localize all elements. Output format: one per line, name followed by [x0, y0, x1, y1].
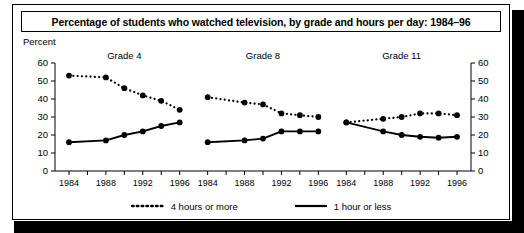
y-tick-label: 20 — [478, 129, 489, 140]
data-point — [399, 114, 405, 120]
legend-item-1-hour-or-less: 1 hour or less — [294, 201, 392, 212]
y-tick-label: 50 — [37, 75, 48, 86]
x-tick-label: 1996 — [447, 178, 467, 188]
data-point — [454, 134, 460, 140]
data-point — [436, 111, 442, 117]
data-point — [417, 134, 423, 140]
x-tick-label: 1984 — [336, 178, 356, 188]
data-point — [158, 98, 164, 104]
data-point — [315, 129, 321, 135]
line-chart-svg: 01020304050600102030405060Grade 41984198… — [13, 45, 511, 191]
data-point — [260, 136, 266, 142]
data-point — [242, 138, 248, 144]
legend-label: 1 hour or less — [334, 201, 392, 212]
x-tick-label: 1984 — [198, 178, 218, 188]
data-point — [121, 132, 127, 138]
data-point — [380, 129, 386, 135]
y-tick-label: 40 — [478, 93, 489, 104]
drop-shadow-right — [512, 10, 524, 233]
data-point — [297, 112, 303, 118]
y-tick-label: 30 — [37, 111, 48, 122]
data-point — [177, 120, 183, 126]
panel-label-1: Grade 4 — [107, 50, 141, 61]
x-tick-label: 1992 — [410, 178, 430, 188]
figure-frame: Percentage of students who watched telev… — [12, 4, 510, 220]
y-tick-label: 20 — [37, 129, 48, 140]
data-point — [279, 129, 285, 135]
y-tick-label: 60 — [37, 57, 48, 68]
panel-label-3: Grade 11 — [382, 50, 421, 61]
legend-item-4-hours-or-more: 4 hours or more — [131, 201, 238, 212]
x-tick-label: 1992 — [271, 178, 291, 188]
data-point — [103, 138, 109, 144]
chart-screenshot: Percentage of students who watched telev… — [0, 0, 524, 233]
data-point — [260, 102, 266, 108]
y-tick-label: 0 — [43, 165, 48, 176]
y-tick-label: 40 — [37, 93, 48, 104]
page-title: Percentage of students who watched telev… — [52, 16, 471, 28]
data-point — [66, 139, 72, 145]
data-point — [454, 112, 460, 118]
legend: 4 hours or more 1 hour or less — [13, 197, 509, 215]
data-point — [140, 129, 146, 135]
x-tick-label: 1988 — [373, 178, 393, 188]
drop-shadow-bottom — [14, 221, 524, 233]
data-point — [158, 123, 164, 129]
data-point — [140, 93, 146, 99]
series-line-4-hours-or-more — [69, 76, 180, 110]
x-tick-label: 1992 — [133, 178, 153, 188]
data-point — [279, 111, 285, 117]
y-tick-label: 10 — [478, 147, 489, 158]
data-point — [315, 114, 321, 120]
data-point — [399, 132, 405, 138]
x-tick-label: 1996 — [170, 178, 190, 188]
title-box: Percentage of students who watched telev… — [21, 11, 501, 32]
x-tick-label: 1996 — [308, 178, 328, 188]
data-point — [205, 94, 211, 100]
data-point — [297, 129, 303, 135]
y-tick-label: 60 — [478, 57, 489, 68]
y-tick-label: 10 — [37, 147, 48, 158]
data-point — [436, 135, 442, 141]
y-tick-label: 50 — [478, 75, 489, 86]
data-point — [417, 111, 423, 117]
legend-label: 4 hours or more — [171, 201, 238, 212]
x-tick-label: 1988 — [96, 178, 116, 188]
data-point — [66, 73, 72, 79]
y-tick-label: 0 — [478, 165, 483, 176]
solid-line-icon — [294, 201, 328, 211]
data-point — [121, 85, 127, 91]
y-tick-label: 30 — [478, 111, 489, 122]
dotted-line-icon — [131, 201, 165, 211]
data-point — [103, 75, 109, 81]
plot-area: 01020304050600102030405060Grade 41984198… — [13, 45, 511, 191]
data-point — [380, 116, 386, 122]
x-tick-label: 1984 — [59, 178, 79, 188]
data-point — [343, 120, 349, 126]
panel-label-2: Grade 8 — [246, 50, 280, 61]
data-point — [177, 107, 183, 113]
data-point — [242, 100, 248, 106]
x-tick-label: 1988 — [235, 178, 255, 188]
data-point — [205, 139, 211, 145]
